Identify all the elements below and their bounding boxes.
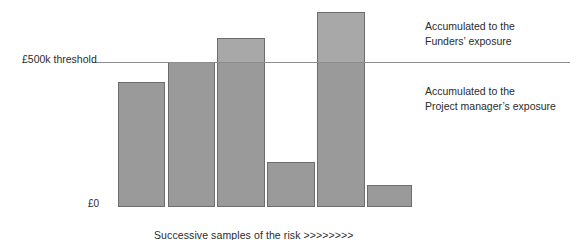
bar-5 xyxy=(317,12,365,207)
x-axis-label: Successive samples of the risk >>>>>>>> xyxy=(154,229,353,240)
annotation-project-manager-line-1: Accumulated to the xyxy=(425,84,556,99)
bar-3-above-threshold-segment xyxy=(218,39,264,63)
bar-4 xyxy=(267,162,315,207)
annotation-project-manager-line-2: Project manager’s exposure xyxy=(425,99,556,114)
bar-2 xyxy=(168,62,215,207)
y-axis-zero-label: £0 xyxy=(88,198,99,209)
risk-exposure-chart: £500k threshold £0 Successive samples of… xyxy=(0,0,578,240)
bar-5-above-threshold-segment xyxy=(318,13,364,63)
annotation-funders-exposure: Accumulated to the Funders’ exposure xyxy=(425,19,515,49)
annotation-funders-line-1: Accumulated to the xyxy=(425,19,515,34)
threshold-line xyxy=(92,62,570,63)
annotation-project-manager-exposure: Accumulated to the Project manager’s exp… xyxy=(425,84,556,114)
threshold-label: £500k threshold xyxy=(22,53,97,65)
bar-1 xyxy=(118,82,165,207)
bar-3 xyxy=(217,38,265,207)
annotation-funders-line-2: Funders’ exposure xyxy=(425,34,515,49)
bar-6 xyxy=(367,185,412,207)
